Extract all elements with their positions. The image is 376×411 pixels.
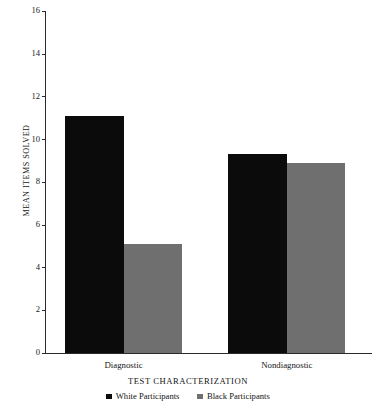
y-tick-label: 12 — [0, 92, 40, 101]
legend-label: Black Participants — [207, 392, 270, 401]
bar-nondiagnostic-white-participants — [228, 154, 287, 353]
y-tick-label: 8 — [0, 177, 40, 186]
legend-label: White Participants — [116, 392, 180, 401]
chart-legend: White ParticipantsBlack Participants — [0, 392, 376, 401]
bar-diagnostic-white-participants — [65, 116, 124, 353]
y-tick-label: 14 — [0, 49, 40, 58]
x-category-label: Diagnostic — [64, 360, 184, 370]
plot-area — [45, 11, 372, 353]
bar-chart: MEAN ITEMS SOLVED 0246810121416 Diagnost… — [0, 0, 376, 411]
legend-item: White Participants — [106, 392, 179, 401]
x-category-label: Nondiagnostic — [227, 360, 347, 370]
y-tick-mark — [42, 353, 45, 354]
legend-item: Black Participants — [197, 392, 269, 401]
y-tick-label: 0 — [0, 348, 40, 357]
black-square-icon — [106, 394, 112, 400]
y-tick-label: 4 — [0, 263, 40, 272]
y-tick-label: 2 — [0, 305, 40, 314]
y-tick-label: 16 — [0, 6, 40, 15]
y-tick-label: 10 — [0, 135, 40, 144]
x-axis-line — [45, 353, 372, 354]
bar-diagnostic-black-participants — [124, 244, 183, 353]
y-tick-label: 6 — [0, 220, 40, 229]
bar-nondiagnostic-black-participants — [287, 163, 346, 353]
gray-square-icon — [197, 394, 203, 400]
x-axis-title: TEST CHARACTERIZATION — [0, 376, 376, 386]
